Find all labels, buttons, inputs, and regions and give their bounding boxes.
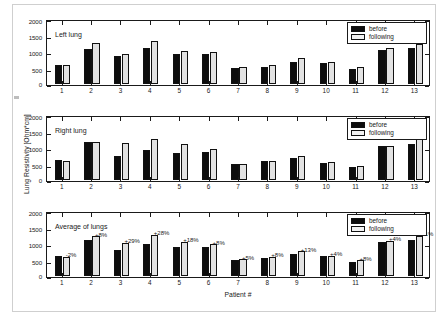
bar-following[interactable] xyxy=(92,142,99,180)
x-tick-top xyxy=(91,117,92,121)
x-tick-label: 8 xyxy=(266,184,270,190)
x-tick xyxy=(238,177,239,181)
x-tick xyxy=(267,81,268,85)
x-tick-label: 6 xyxy=(207,280,211,286)
bar-before[interactable] xyxy=(408,144,415,180)
x-tick-top xyxy=(62,117,63,121)
x-tick xyxy=(179,81,180,85)
y-label-1000: 1000 xyxy=(29,243,42,249)
bar-following[interactable] xyxy=(122,54,129,84)
bar-following[interactable] xyxy=(239,164,246,180)
x-tick-label: 11 xyxy=(352,184,359,190)
bar-before[interactable] xyxy=(84,49,91,84)
bar-group xyxy=(202,118,217,180)
x-tick-top xyxy=(238,21,239,25)
plot-area-right-lung: 2000 1500 1000 500 0 Right lung before f… xyxy=(46,116,430,182)
bar-group xyxy=(84,22,99,84)
legend-label-before: before xyxy=(369,122,387,128)
x-tick-label: 12 xyxy=(381,184,388,190)
y-label-0: 0 xyxy=(39,178,42,184)
bar-before[interactable] xyxy=(143,150,150,180)
x-tick-label: 11 xyxy=(352,280,359,286)
bar-following[interactable] xyxy=(416,139,423,180)
panel-left-lung: 2000 1500 1000 500 0 Left lung before fo… xyxy=(0,14,447,102)
x-tick xyxy=(62,177,63,181)
legend-swatch-following-icon xyxy=(351,130,365,136)
bar-following[interactable] xyxy=(210,149,217,180)
bar-before[interactable] xyxy=(202,54,209,84)
x-tick-label: 5 xyxy=(177,280,181,286)
x-tick-top xyxy=(120,117,121,121)
bar-group xyxy=(261,118,276,180)
bar-following[interactable] xyxy=(151,41,158,84)
x-tick-label: 3 xyxy=(119,280,123,286)
bar-before[interactable] xyxy=(173,153,180,180)
bar-following[interactable] xyxy=(92,43,99,84)
x-tick xyxy=(238,81,239,85)
bar-following[interactable] xyxy=(386,48,393,84)
y-label-0: 0 xyxy=(39,274,42,280)
bar-following[interactable] xyxy=(357,67,364,84)
x-tick-label: 4 xyxy=(148,88,152,94)
bar-before[interactable] xyxy=(173,54,180,84)
bar-following[interactable] xyxy=(328,62,335,84)
y-label-0: 0 xyxy=(39,82,42,88)
x-tick xyxy=(297,81,298,85)
x-tick-label: 13 xyxy=(411,88,418,94)
y-label-2000: 2000 xyxy=(29,19,42,25)
bar-following[interactable] xyxy=(357,166,364,180)
percent-change-label: +8% xyxy=(95,232,107,238)
bar-following[interactable] xyxy=(386,146,393,180)
panel-title-average-of-lungs: Average of lungs xyxy=(55,223,107,230)
y-tick-right-0 xyxy=(425,86,429,87)
bar-before[interactable] xyxy=(378,50,385,84)
bar-following[interactable] xyxy=(269,161,276,180)
bar-following[interactable] xyxy=(328,162,335,180)
bar-following[interactable] xyxy=(63,161,70,180)
bar-following[interactable] xyxy=(181,51,188,84)
percent-change-label: +4% xyxy=(330,251,342,257)
bar-group xyxy=(173,22,188,84)
bar-before[interactable] xyxy=(143,48,150,84)
legend-row-before: before xyxy=(351,121,423,129)
panel-title-right-lung: Right lung xyxy=(55,127,87,134)
bar-before[interactable] xyxy=(84,142,91,180)
bar-following[interactable] xyxy=(63,65,70,84)
legend-label-following: following xyxy=(369,34,394,40)
x-tick-label: 7 xyxy=(236,184,240,190)
bar-before[interactable] xyxy=(408,48,415,84)
bar-group xyxy=(320,118,335,180)
y-tick-right-0 xyxy=(425,182,429,183)
bar-following[interactable] xyxy=(122,143,129,180)
bar-following[interactable] xyxy=(269,65,276,84)
x-tick-top xyxy=(62,21,63,25)
percent-change-label: -2% xyxy=(66,252,77,258)
bar-group xyxy=(114,118,129,180)
x-tick-label: 2 xyxy=(89,184,93,190)
bar-following[interactable] xyxy=(181,144,188,180)
x-tick-label: 10 xyxy=(323,280,330,286)
x-tick xyxy=(297,177,298,181)
x-tick-top xyxy=(179,117,180,121)
x-tick-label: 2 xyxy=(89,88,93,94)
bar-following[interactable] xyxy=(151,139,158,180)
x-tick-label: 6 xyxy=(207,88,211,94)
y-label-1500: 1500 xyxy=(29,34,42,40)
bar-following[interactable] xyxy=(298,58,305,84)
legend-row-following: following xyxy=(351,129,423,137)
bar-following[interactable] xyxy=(298,156,305,180)
legend-average-of-lungs: before following xyxy=(347,214,427,236)
bar-before[interactable] xyxy=(378,146,385,180)
y-label-1000: 1000 xyxy=(29,51,42,57)
bar-following[interactable] xyxy=(239,67,246,84)
bar-following[interactable] xyxy=(210,52,217,84)
bar-following[interactable] xyxy=(416,44,423,84)
percent-change-label: +29% xyxy=(124,238,140,244)
x-labels-average-of-lungs: 12345678910111213 xyxy=(46,280,430,290)
bar-before[interactable] xyxy=(114,56,121,84)
bar-group xyxy=(202,22,217,84)
bar-before[interactable] xyxy=(202,152,209,180)
x-tick-top xyxy=(209,21,210,25)
legend-row-following: following xyxy=(351,33,423,41)
x-tick-label: 9 xyxy=(295,88,299,94)
